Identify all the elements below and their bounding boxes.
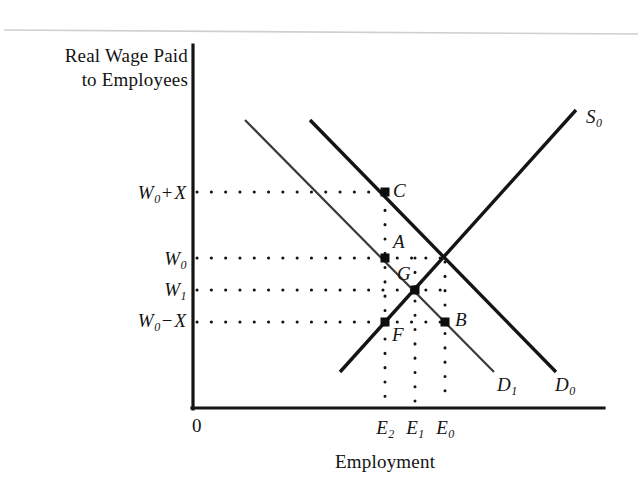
wage-op-0: + bbox=[160, 182, 175, 203]
page-divider bbox=[4, 30, 638, 34]
wage-term-0: X bbox=[174, 182, 186, 203]
data-point-F bbox=[381, 318, 390, 327]
curve-label-d1: D1 bbox=[497, 375, 517, 394]
wage-base-3: W bbox=[138, 310, 154, 331]
economics-figure: Real Wage Paid to Employees Employment 0… bbox=[0, 0, 642, 482]
data-point-G bbox=[411, 286, 420, 295]
wage-base-1: W bbox=[164, 248, 180, 269]
curve-label-d0: D0 bbox=[555, 375, 575, 394]
point-label-b: B bbox=[455, 310, 467, 329]
curve-base-d0: D bbox=[555, 374, 569, 395]
curve-sub-s0: 0 bbox=[596, 116, 602, 130]
y-axis-title: Real Wage Paid to Employees bbox=[28, 44, 188, 92]
y-axis-title-line2: to Employees bbox=[28, 68, 188, 92]
point-label-a: A bbox=[393, 232, 405, 251]
curve-label-s0: S0 bbox=[586, 107, 602, 126]
point-label-f: F bbox=[392, 325, 404, 344]
demand-curve-d1-line bbox=[245, 120, 494, 372]
y-axis-title-line1: Real Wage Paid bbox=[28, 44, 188, 68]
emp-sub-0: 2 bbox=[388, 427, 394, 441]
curve-base-d1: D bbox=[497, 374, 511, 395]
curve-base-s0: S bbox=[586, 106, 596, 127]
wage-sub-2: 1 bbox=[181, 289, 187, 303]
wage-sub-1: 0 bbox=[181, 258, 187, 272]
curve-sub-d1: 1 bbox=[511, 384, 517, 398]
data-point-A bbox=[381, 254, 390, 263]
wage-tick-label-w1: W1 bbox=[78, 280, 186, 299]
emp-base-1: E bbox=[406, 417, 418, 438]
wage-term-3: X bbox=[174, 310, 186, 331]
emp-base-2: E bbox=[436, 417, 448, 438]
emp-sub-1: 1 bbox=[418, 427, 424, 441]
wage-tick-label-w0-plus-x: W0+X bbox=[78, 183, 186, 202]
curve-sub-d0: 0 bbox=[569, 384, 575, 398]
wage-base-2: W bbox=[164, 279, 180, 300]
wage-sub-3: 0 bbox=[154, 320, 160, 334]
data-point-B bbox=[441, 318, 450, 327]
emp-sub-2: 0 bbox=[448, 427, 454, 441]
wage-op-3: − bbox=[160, 310, 175, 331]
wage-sub-0: 0 bbox=[154, 192, 160, 206]
wage-base-0: W bbox=[138, 182, 154, 203]
demand-curve-d0-line bbox=[310, 120, 556, 372]
point-label-g: G bbox=[397, 264, 411, 283]
data-point-C bbox=[381, 188, 390, 197]
supply-curve-s0-line bbox=[340, 110, 576, 372]
x-axis-title: Employment bbox=[335, 452, 435, 471]
wage-tick-label-w0: W0 bbox=[78, 249, 186, 268]
emp-base-0: E bbox=[376, 417, 388, 438]
origin-label: 0 bbox=[192, 416, 202, 435]
employment-tick-label-e0: E0 bbox=[425, 418, 465, 437]
wage-tick-label-w0-minus-x: W0−X bbox=[78, 311, 186, 330]
point-label-c: C bbox=[393, 181, 406, 200]
